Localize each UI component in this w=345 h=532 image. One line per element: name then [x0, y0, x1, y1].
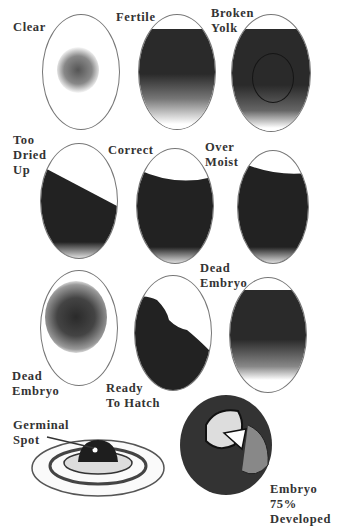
germinal-spot-illustration — [30, 430, 170, 500]
egg-clear — [42, 14, 120, 130]
label-fertile: Fertile — [116, 10, 156, 25]
egg-broken-yolk — [231, 14, 311, 132]
label-embryo-75: Embryo 75% Developed — [270, 482, 331, 527]
egg-dead-embryo-late — [229, 277, 307, 393]
label-dead-embryo-early: Dead Embryo — [12, 369, 59, 399]
egg-correct — [136, 148, 214, 264]
label-over-moist: Over Moist — [205, 140, 239, 170]
label-ready-to-hatch: Ready To Hatch — [106, 381, 160, 411]
egg-ready-to-hatch — [134, 275, 212, 391]
egg-over-moist — [237, 150, 309, 264]
egg-fertile — [138, 14, 216, 130]
label-clear: Clear — [13, 20, 46, 35]
egg-too-dried-up — [40, 143, 118, 259]
